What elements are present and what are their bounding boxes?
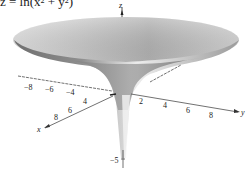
y-axis-label: y [240, 108, 245, 117]
x-tick-neg6: −6 [45, 85, 54, 94]
x-tick-neg4: −4 [66, 88, 75, 97]
x-tick-4: 4 [83, 97, 87, 106]
plot-canvas: z −8 −6 −4 4 6 [0, 0, 246, 171]
x-tick-6: 6 [68, 106, 72, 115]
chart-title: z = ln(x² + y²) [0, 0, 73, 10]
y-tick-2: 2 [139, 97, 143, 106]
z-tick-neg5: −5 [110, 156, 119, 165]
x-tick-8: 8 [54, 113, 58, 122]
y-tick-6: 6 [186, 106, 190, 115]
surface-plot: z = ln(x² + y²) [0, 0, 246, 171]
y-tick-8: 8 [209, 111, 213, 120]
x-axis-label: x [36, 125, 41, 134]
y-tick-4: 4 [163, 101, 167, 110]
x-tick-neg8: −8 [24, 83, 33, 92]
